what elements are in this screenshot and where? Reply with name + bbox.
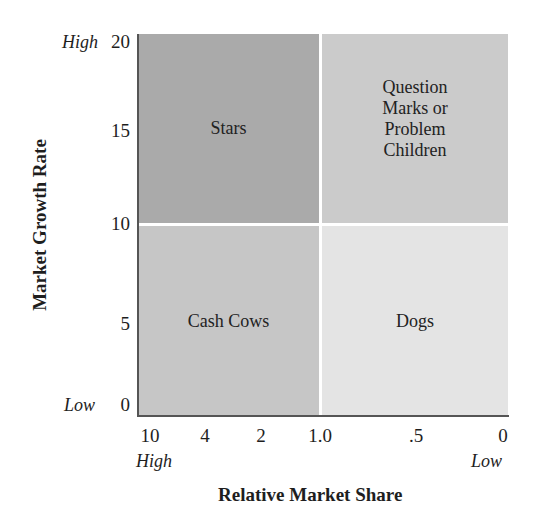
label-line: Question (382, 77, 448, 98)
x-tick-1: 1.0 (308, 426, 332, 446)
x-tick-4: 4 (200, 426, 210, 446)
x-low-label: Low (471, 451, 502, 471)
quadrant-stars-label: Stars (211, 118, 247, 139)
bcg-matrix-plot: Stars Question Marks or Problem Children… (138, 34, 508, 416)
quadrant-stars: Stars (138, 34, 319, 223)
label-line: Marks or (382, 98, 448, 119)
y-axis-line (137, 34, 139, 417)
quadrant-cash-cows-label: Cash Cows (188, 311, 270, 332)
y-low-label: Low (64, 395, 95, 415)
quadrant-dogs-label: Dogs (396, 311, 434, 332)
y-tick-0: 0 (121, 395, 131, 415)
x-axis-title: Relative Market Share (218, 484, 402, 506)
quadrant-dogs: Dogs (322, 226, 508, 416)
x-tick-0: 0 (498, 426, 508, 446)
y-tick-10: 10 (111, 214, 130, 234)
quadrant-question-marks-label: Question Marks or Problem Children (382, 77, 448, 161)
quadrant-question-marks: Question Marks or Problem Children (322, 34, 508, 223)
label-line: Problem (382, 119, 448, 140)
y-tick-5: 5 (121, 314, 131, 334)
x-tick-0-5: .5 (409, 426, 423, 446)
y-axis-title: Market Growth Rate (29, 139, 51, 311)
x-axis-line (137, 415, 509, 417)
y-tick-20: 20 (111, 32, 130, 52)
y-tick-15: 15 (111, 121, 130, 141)
x-tick-2: 2 (256, 426, 266, 446)
x-tick-10: 10 (141, 426, 160, 446)
label-line: Children (382, 140, 448, 161)
quadrant-cash-cows: Cash Cows (138, 226, 319, 416)
x-high-label: High (136, 451, 172, 471)
y-high-label: High (62, 32, 98, 52)
